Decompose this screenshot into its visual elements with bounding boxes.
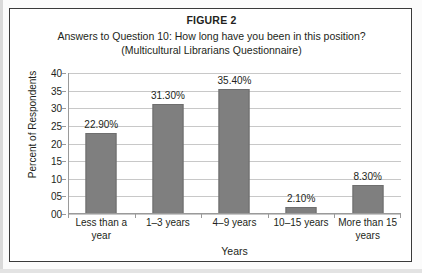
bar-value-label: 22.90% xyxy=(84,119,118,130)
y-axis-tick-label: 35 xyxy=(34,85,62,96)
bars-layer: 22.90%31.30%35.40%2.10%8.30% xyxy=(68,73,401,214)
y-axis-tick-label: 25 xyxy=(34,120,62,131)
bar-slot: 8.30% xyxy=(334,73,401,214)
y-axis-tick-labels: 000510152025303540 xyxy=(32,73,62,214)
y-axis-tick-label: 00 xyxy=(34,209,62,220)
x-axis-title: Years xyxy=(68,245,401,257)
bar[interactable] xyxy=(219,89,250,214)
bar-value-label: 2.10% xyxy=(287,193,315,204)
y-axis-tick-mark xyxy=(62,144,66,145)
y-axis-tick-mark xyxy=(62,214,66,215)
bar[interactable] xyxy=(352,185,383,214)
x-axis-tick-label: Less than a year xyxy=(68,217,135,242)
scan-edge-left xyxy=(0,0,3,273)
figure-subtitle-line-1: Answers to Question 10: How long have yo… xyxy=(10,30,413,42)
y-axis-tick-mark xyxy=(62,196,66,197)
x-axis-tick-label: More than 15 years xyxy=(334,217,401,242)
bar-value-label: 31.30% xyxy=(151,90,185,101)
y-axis-tick-mark xyxy=(62,108,66,109)
bar-slot: 35.40% xyxy=(201,73,268,214)
plot-inner: 22.90%31.30%35.40%2.10%8.30% xyxy=(68,73,401,214)
bar-slot: 2.10% xyxy=(268,73,335,214)
y-axis-tick-label: 30 xyxy=(34,103,62,114)
y-axis-tick-label: 05 xyxy=(34,191,62,202)
bar-value-label: 8.30% xyxy=(354,171,382,182)
plot-area: 22.90%31.30%35.40%2.10%8.30% xyxy=(68,73,401,214)
chart-area: Percent of Respondents 00051015202530354… xyxy=(10,57,413,263)
figure-page: FIGURE 2 Answers to Question 10: How lon… xyxy=(0,0,422,273)
bar-slot: 22.90% xyxy=(68,73,135,214)
y-axis-tick-mark xyxy=(62,161,66,162)
y-axis-tick-mark xyxy=(62,179,66,180)
x-axis-line xyxy=(68,213,401,214)
x-axis-tick-label: 4–9 years xyxy=(201,217,268,230)
y-axis-tick-mark xyxy=(62,126,66,127)
bar-slot: 31.30% xyxy=(135,73,202,214)
x-axis-tick-labels: Less than a year1–3 years4–9 years10–15 … xyxy=(68,217,401,247)
figure-frame: FIGURE 2 Answers to Question 10: How lon… xyxy=(9,8,412,262)
figure-subtitle-line-2: (Multicultural Librarians Questionnaire) xyxy=(10,44,413,56)
y-axis-tick-label: 15 xyxy=(34,156,62,167)
scan-edge-bottom xyxy=(0,269,422,273)
bar[interactable] xyxy=(152,104,183,214)
x-axis-tick-label: 1–3 years xyxy=(135,217,202,230)
y-axis-tick-label: 10 xyxy=(34,173,62,184)
x-axis-tick-label: 10–15 years xyxy=(268,217,335,230)
y-axis-line xyxy=(68,73,69,214)
y-axis-tick-label: 40 xyxy=(34,68,62,79)
y-axis-tick-mark xyxy=(62,73,66,74)
bar[interactable] xyxy=(86,133,117,214)
y-axis-tick-label: 20 xyxy=(34,138,62,149)
gridline xyxy=(68,214,401,215)
figure-title: FIGURE 2 xyxy=(10,14,413,26)
y-axis-tick-mark xyxy=(62,91,66,92)
bar-value-label: 35.40% xyxy=(218,75,252,86)
